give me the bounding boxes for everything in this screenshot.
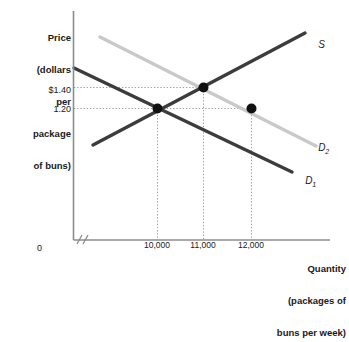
- curve-label-d1: D1: [294, 164, 316, 200]
- x-tick-label-11000: 11,000: [180, 241, 226, 251]
- origin-label: 0: [37, 243, 42, 253]
- y-axis-title-line-1: (dollars: [33, 65, 71, 76]
- y-axis-title-line-0: Price: [33, 33, 71, 44]
- x-tick-label-10000: 10,000: [134, 241, 180, 251]
- x-axis-title-line-1: (packages of: [268, 296, 346, 307]
- curve-label-d2-sub: 2: [325, 148, 329, 155]
- curve-d1: [74, 68, 292, 172]
- curve-label-supply: S: [307, 28, 325, 62]
- x-axis-title-line-0: Quantity: [268, 264, 346, 275]
- curve-label-supply-text: S: [318, 39, 325, 50]
- x-axis-title: Quantity (packages of buns per week): [268, 243, 346, 342]
- curve-label-d1-sub: 1: [312, 181, 316, 188]
- marker-equilibrium-initial: [153, 104, 163, 114]
- x-axis-title-line-2: buns per week): [268, 328, 346, 339]
- axes: [74, 11, 331, 240]
- y-axis-title-line-3: package: [33, 129, 71, 140]
- curve-label-d2: D2: [307, 131, 329, 167]
- y-tick-label-140: $1.40: [48, 85, 71, 95]
- y-axis-title: Price (dollars per package of buns): [33, 12, 71, 193]
- curve-d2: [100, 37, 316, 146]
- y-axis-title-line-4: of buns): [33, 161, 71, 172]
- marker-quantity-demanded-d2: [247, 104, 257, 114]
- y-tick-label-120: 1.20: [53, 104, 71, 114]
- marker-equilibrium-new: [199, 83, 209, 93]
